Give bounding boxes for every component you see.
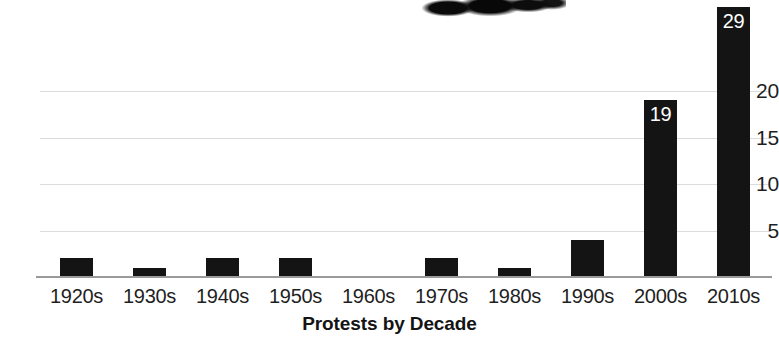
y-tick-label: 15: [741, 127, 779, 148]
x-tick-label: 1990s: [551, 284, 624, 308]
bar: [60, 258, 93, 277]
y-tick-label: 10: [741, 173, 779, 194]
bar: [571, 240, 604, 277]
bar-value-label: 29: [717, 10, 750, 32]
x-tick-label: 1950s: [259, 284, 332, 308]
x-tick-label: 1970s: [405, 284, 478, 308]
y-tick-label: 5: [741, 220, 779, 241]
bar: [425, 258, 458, 277]
plot-area: 1929: [40, 0, 770, 277]
x-tick-label: 1980s: [478, 284, 551, 308]
x-tick-labels: 1920s1930s1940s1950s1960s1970s1980s1990s…: [40, 284, 770, 312]
x-tick-label: 2010s: [697, 284, 770, 308]
x-tick-label: 1960s: [332, 284, 405, 308]
x-axis-title: Protests by Decade: [0, 313, 779, 335]
y-axis: [0, 0, 38, 277]
x-tick-label: 1930s: [113, 284, 186, 308]
x-tick-label: 1940s: [186, 284, 259, 308]
bar: 19: [644, 100, 677, 277]
bar: [279, 258, 312, 277]
bar-chart: 1929 5101520 1920s1930s1940s1950s1960s19…: [0, 0, 779, 342]
bar: [206, 258, 239, 277]
x-tick-label: 1920s: [40, 284, 113, 308]
gridline-20: [40, 91, 770, 92]
x-tick-label: 2000s: [624, 284, 697, 308]
x-axis-line: [36, 276, 772, 278]
y-tick-label: 20: [741, 80, 779, 101]
bar-value-label: 19: [644, 103, 677, 125]
